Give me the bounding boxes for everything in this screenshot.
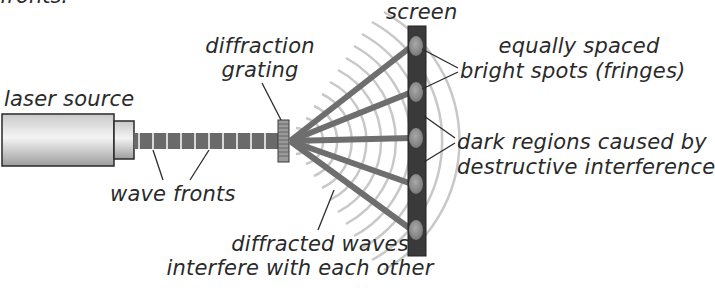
label-bright-spots-1: equally spaced xyxy=(460,34,698,58)
label-screen: screen xyxy=(386,0,457,24)
label-dark-regions-2: destructive interference xyxy=(457,155,715,179)
label-diffraction-grating-1: diffraction xyxy=(200,34,320,58)
label-wave-fronts: wave fronts xyxy=(110,182,236,206)
caption-fragment: fronts. xyxy=(0,0,68,8)
screen-icon xyxy=(408,26,426,256)
label-bright-spots-2: bright spots (fringes) xyxy=(460,59,685,83)
label-dark-regions-1: dark regions caused by xyxy=(457,130,707,154)
label-diffracted-waves-1: diffracted waves xyxy=(200,232,440,256)
label-diffraction-grating-2: grating xyxy=(200,58,320,82)
laser-source-icon xyxy=(2,114,134,166)
label-laser-source: laser source xyxy=(4,87,134,111)
laser-beam xyxy=(134,133,280,149)
diffraction-grating-icon xyxy=(278,120,289,162)
label-diffracted-waves-2: interfere with each other xyxy=(150,256,450,280)
